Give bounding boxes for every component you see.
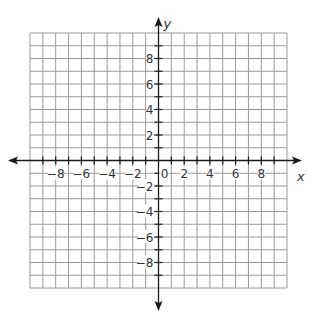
y-axis-label: y [163, 16, 172, 31]
x-axis-label: x [296, 169, 305, 184]
axes [8, 17, 302, 311]
y-tick-label: −2 [136, 180, 154, 194]
origin-label: 0 [161, 167, 169, 181]
y-tick-label: −8 [136, 256, 154, 270]
x-tick-label: 6 [232, 167, 240, 181]
y-tick-label: −6 [136, 231, 154, 245]
x-tick-label: −8 [47, 167, 65, 181]
x-tick-label: 8 [257, 167, 265, 181]
x-tick-label: −6 [73, 167, 91, 181]
y-tick-label: 2 [146, 129, 154, 143]
tick-labels: −8−6−4−22468−8−6−4−224680xy [47, 16, 305, 270]
y-tick-label: −4 [136, 205, 154, 219]
x-tick-label: 4 [206, 167, 214, 181]
y-tick-label: 8 [146, 52, 154, 66]
x-tick-label: 2 [180, 167, 188, 181]
coordinate-plane: −8−6−4−22468−8−6−4−224680xy [0, 0, 320, 327]
x-tick-label: −2 [124, 167, 142, 181]
x-tick-label: −4 [98, 167, 116, 181]
y-tick-label: 4 [146, 103, 154, 117]
y-tick-label: 6 [146, 78, 154, 92]
